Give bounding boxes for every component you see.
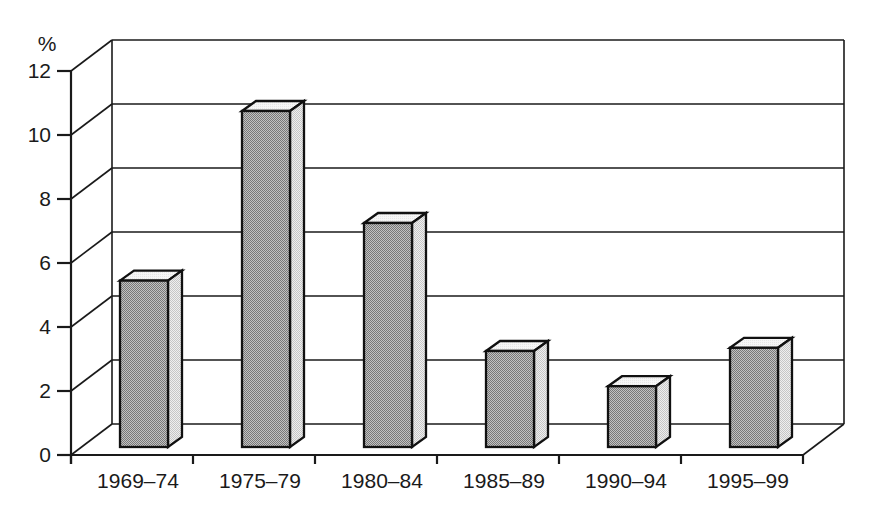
bar-chart-3d: 0246810121969–741975–791980–841985–89199… bbox=[0, 0, 882, 515]
y-tick-label-8: 8 bbox=[39, 187, 51, 210]
x-category-label: 1969–74 bbox=[97, 469, 179, 492]
left-wall-diagonal-10 bbox=[71, 104, 112, 135]
floor-plane bbox=[71, 424, 844, 455]
left-wall-diagonal-8 bbox=[71, 168, 112, 199]
chart-figure: 0246810121969–741975–791980–841985–89199… bbox=[0, 0, 882, 515]
y-tick-label-0: 0 bbox=[39, 443, 51, 466]
y-tick-label-12: 12 bbox=[28, 59, 51, 82]
y-tick-label-4: 4 bbox=[39, 315, 51, 338]
bar-1980–84 bbox=[364, 213, 426, 447]
bar-front-face bbox=[730, 348, 778, 447]
bar-side-face bbox=[168, 271, 182, 447]
bar-side-face bbox=[412, 213, 426, 447]
bar-1990–94 bbox=[608, 376, 670, 447]
x-category-label: 1995–99 bbox=[707, 469, 789, 492]
left-wall-diagonal-0 bbox=[71, 424, 112, 455]
y-axis-unit-label: % bbox=[38, 32, 57, 55]
bar-front-face bbox=[242, 111, 290, 447]
bar-1995–99 bbox=[730, 338, 792, 447]
x-category-label: 1985–89 bbox=[463, 469, 545, 492]
x-category-label: 1990–94 bbox=[585, 469, 667, 492]
bar-side-face bbox=[534, 341, 548, 447]
bar-front-face bbox=[120, 281, 168, 447]
back-wall-and-grid bbox=[71, 40, 844, 455]
left-wall-diagonal-4 bbox=[71, 296, 112, 327]
bar-front-face bbox=[608, 386, 656, 447]
x-category-label: 1975–79 bbox=[219, 469, 301, 492]
bar-front-face bbox=[364, 223, 412, 447]
y-tick-label-6: 6 bbox=[39, 251, 51, 274]
bar-front-face bbox=[486, 351, 534, 447]
bar-side-face bbox=[656, 376, 670, 447]
y-tick-label-10: 10 bbox=[28, 123, 51, 146]
bar-side-face bbox=[778, 338, 792, 447]
bar-side-face bbox=[290, 101, 304, 447]
x-category-label: 1980–84 bbox=[341, 469, 423, 492]
left-wall-diagonal-6 bbox=[71, 232, 112, 263]
bars bbox=[120, 101, 792, 447]
bar-1969–74 bbox=[120, 271, 182, 447]
bar-1985–89 bbox=[486, 341, 548, 447]
left-wall-diagonal-2 bbox=[71, 360, 112, 391]
y-tick-label-2: 2 bbox=[39, 379, 51, 402]
left-wall-diagonal-12 bbox=[71, 40, 112, 71]
floor-right-diagonal bbox=[803, 424, 844, 455]
bar-1975–79 bbox=[242, 101, 304, 447]
